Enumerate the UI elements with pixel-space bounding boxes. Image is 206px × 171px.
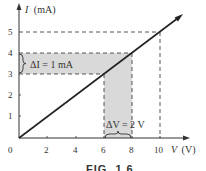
x-tick-10: 10 [154, 145, 164, 155]
y-tick-5: 5 [8, 27, 13, 37]
y-tick-4: 4 [8, 48, 13, 58]
x-axis-label: V (V) [171, 144, 196, 156]
x-tick-4: 4 [73, 145, 78, 155]
ticks [19, 95, 160, 138]
x-tick-0: 0 [8, 145, 13, 155]
x-tick-6: 6 [101, 145, 106, 155]
delta-v-label: ΔV = 2 V [106, 119, 145, 130]
iv-line [19, 18, 178, 138]
y-tick-2: 2 [8, 90, 13, 100]
x-tick-8: 8 [129, 145, 134, 155]
y-tick-1: 1 [8, 111, 13, 121]
y-axis-arrow-icon [17, 3, 22, 10]
y-axis-label: I (mA) [24, 4, 56, 16]
x-axis-arrow-icon [183, 136, 190, 141]
delta-i-label: ΔI = 1 mA [30, 59, 74, 70]
iv-chart: 5 4 3 2 1 0 2 4 6 8 10 I (mA) V (V) ΔI =… [0, 0, 206, 171]
figure-caption: FIG. 1.6 [86, 163, 134, 171]
y-tick-3: 3 [8, 69, 13, 79]
x-tick-2: 2 [44, 145, 49, 155]
